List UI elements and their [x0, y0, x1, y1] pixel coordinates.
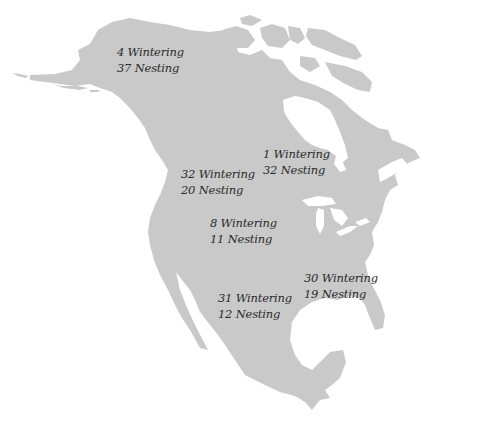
nesting-count: 32 Nesting — [263, 162, 330, 178]
aleutian-islands — [12, 73, 28, 78]
wintering-count: 1 Wintering — [263, 146, 330, 162]
region-label-southwest: 31 Wintering 12 Nesting — [218, 290, 292, 322]
wintering-count: 8 Wintering — [210, 215, 277, 231]
region-label-great-plains: 8 Wintering 11 Nesting — [210, 215, 277, 247]
wintering-count: 31 Wintering — [218, 290, 292, 306]
region-label-central-canada: 1 Wintering 32 Nesting — [263, 146, 330, 178]
nesting-count: 20 Nesting — [181, 182, 255, 198]
nesting-count: 19 Nesting — [304, 286, 378, 302]
nesting-count: 11 Nesting — [210, 231, 277, 247]
nesting-count: 12 Nesting — [218, 306, 292, 322]
region-label-pacific-northwest: 32 Wintering 20 Nesting — [181, 166, 255, 198]
north-america-map: 4 Wintering 37 Nesting 32 Wintering 20 N… — [0, 0, 486, 428]
north-america-landmass — [0, 0, 486, 428]
wintering-count: 32 Wintering — [181, 166, 255, 182]
nesting-count: 37 Nesting — [117, 60, 184, 76]
region-label-southeast: 30 Wintering 19 Nesting — [304, 270, 378, 302]
wintering-count: 30 Wintering — [304, 270, 378, 286]
wintering-count: 4 Wintering — [117, 44, 184, 60]
region-label-alaska: 4 Wintering 37 Nesting — [117, 44, 184, 76]
